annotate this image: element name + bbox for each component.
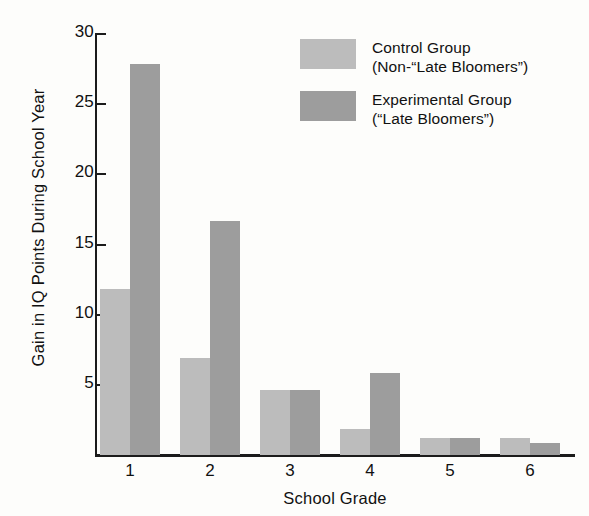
legend-label-control-line1: Control Group — [372, 39, 471, 56]
bar-grade-5-control — [420, 438, 450, 455]
bar-grade-3-control — [260, 390, 290, 455]
bar-grade-1-experimental — [130, 64, 160, 455]
chart-legend: Control Group (Non‑“Late Bloomers”) Expe… — [300, 38, 580, 142]
bar-grade-2-control — [180, 358, 210, 455]
bar-grade-4-experimental — [370, 373, 400, 455]
legend-swatch-experimental — [300, 91, 356, 121]
bar-grade-1-control — [100, 289, 130, 455]
legend-label-control-line2: (Non‑“Late Bloomers”) — [372, 57, 528, 76]
legend-label-control: Control Group (Non‑“Late Bloomers”) — [372, 38, 528, 76]
legend-swatch-control — [300, 39, 356, 69]
bar-grade-4-control — [340, 429, 370, 454]
legend-label-experimental-line1: Experimental Group — [372, 91, 512, 108]
legend-label-experimental-line2: (“Late Bloomers”) — [372, 109, 512, 128]
legend-item-control: Control Group (Non‑“Late Bloomers”) — [300, 38, 580, 76]
bar-chart-figure: Gain in IQ Points During School Year 510… — [0, 0, 589, 516]
legend-item-experimental: Experimental Group (“Late Bloomers”) — [300, 90, 580, 128]
bar-grade-6-control — [500, 438, 530, 455]
bar-grade-5-experimental — [450, 438, 480, 455]
bar-grade-3-experimental — [290, 390, 320, 455]
legend-label-experimental: Experimental Group (“Late Bloomers”) — [372, 90, 512, 128]
bar-grade-6-experimental — [530, 443, 560, 454]
bar-grade-2-experimental — [210, 221, 240, 454]
